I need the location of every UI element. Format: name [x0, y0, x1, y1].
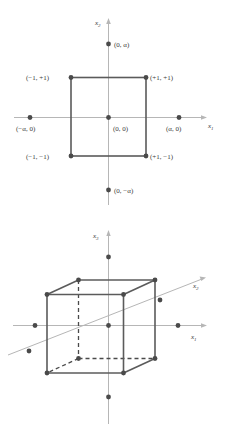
- point-axial-x3-negative: [106, 395, 111, 400]
- label-center: (0, 0): [113, 125, 129, 133]
- point-axial-x1-positive: [176, 323, 181, 328]
- cube-vertex-front-bottom-left: [45, 371, 50, 376]
- cube-vertex-back-bottom-left: [76, 356, 81, 361]
- point-axial-left: [28, 115, 33, 120]
- label-factorial-bottom-right: (+1, −1): [150, 153, 174, 161]
- label-factorial-bottom-left: (−1, −1): [26, 153, 50, 161]
- panel-2d-central-composite: x2 x1 (0, α) (0, −α) (−α, 0) (α, 0) (0, …: [0, 0, 227, 212]
- cube-vertex-front-top-right: [121, 292, 126, 297]
- point-factorial-bottom-right: [144, 154, 149, 159]
- point-axial-x1-negative: [33, 323, 38, 328]
- cube-edge-hidden-diagonal: [47, 359, 79, 374]
- point-center: [106, 115, 111, 120]
- point-axial-right: [177, 115, 182, 120]
- panel-3d-central-composite: x3 x2 x1: [0, 212, 227, 427]
- axis-label-x1-3d: x1: [190, 333, 197, 342]
- axis-x2-arrow: [106, 18, 111, 24]
- axis-x3-arrow: [106, 230, 110, 236]
- label-axial-top: (0, α): [114, 41, 130, 49]
- point-axial-x2-negative: [27, 349, 32, 354]
- label-factorial-top-left: (−1, +1): [26, 74, 50, 82]
- cube-vertex-front-bottom-right: [121, 371, 126, 376]
- figure-root: x2 x1 (0, α) (0, −α) (−α, 0) (α, 0) (0, …: [0, 0, 227, 427]
- cube-edge-depth-bottom-right: [124, 359, 156, 374]
- cube-edge-depth-top-left: [47, 280, 79, 295]
- axis-x1-arrow: [201, 115, 207, 120]
- label-axial-right: (α, 0): [166, 125, 182, 133]
- point-axial-x3-positive: [106, 255, 111, 260]
- cube-vertex-back-top-left: [76, 278, 81, 283]
- label-axial-left: (−α, 0): [16, 125, 36, 133]
- label-factorial-top-right: (+1, +1): [150, 74, 174, 82]
- point-axial-bottom: [106, 188, 111, 193]
- axis-x2-line-3d: [8, 279, 202, 355]
- point-axial-top: [106, 42, 111, 47]
- axis-label-x2: x2: [94, 19, 101, 28]
- axis-x1-arrow-3d: [201, 323, 207, 327]
- point-center-3d: [106, 323, 111, 328]
- point-factorial-top-left: [69, 75, 74, 80]
- point-factorial-top-right: [144, 75, 149, 80]
- axis-label-x2-3d: x2: [192, 282, 199, 291]
- axis-x2-arrow-3d: [200, 277, 206, 281]
- axis-label-x3: x3: [92, 232, 99, 241]
- cube-edge-depth-top-right: [124, 280, 156, 295]
- cube-vertex-front-top-left: [45, 292, 50, 297]
- point-axial-x2-positive: [158, 298, 163, 303]
- cube-vertex-back-top-right: [153, 278, 158, 283]
- point-factorial-bottom-left: [69, 154, 74, 159]
- label-axial-bottom: (0, −α): [114, 187, 134, 195]
- axis-label-x1: x1: [207, 122, 214, 131]
- cube-vertex-back-bottom-right: [153, 356, 158, 361]
